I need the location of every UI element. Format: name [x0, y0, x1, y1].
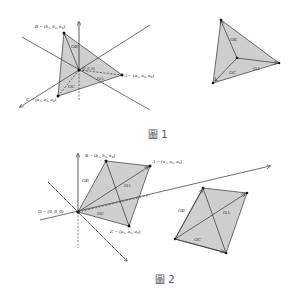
detail-parallelogram	[175, 188, 247, 253]
detail-vector-ob: OB	[230, 37, 237, 42]
detail-point-b	[202, 187, 205, 190]
parallelogram-fill	[78, 161, 150, 226]
label-b: B = (b₁, b₂, b₃)	[85, 153, 115, 159]
label-c: C = (a₁, a₂, a₃)	[110, 229, 141, 235]
detail-point-o	[174, 238, 177, 241]
detail-point-b	[220, 19, 223, 22]
detail-vector-oc: OC	[229, 70, 237, 75]
point-a	[149, 165, 152, 168]
caption-figure-1: 圖 1	[148, 126, 168, 141]
vector-ob: OB	[71, 44, 78, 49]
point-b	[63, 32, 66, 35]
point-b	[105, 160, 108, 163]
figure-2-detail: OB OA OC	[174, 187, 249, 255]
detail-point-a	[278, 62, 281, 65]
label-c: C = (a₁, a₂, a₃)	[26, 97, 57, 103]
label-a: A = (a₁, a₂, a₃)	[123, 73, 154, 79]
detail-face	[213, 20, 279, 83]
axis-b	[79, 25, 150, 70]
point-o	[78, 69, 81, 72]
detail-vector-oa: OA	[253, 66, 261, 71]
vector-ob: OB	[82, 178, 89, 183]
point-c	[128, 225, 131, 228]
detail-point-a	[246, 192, 249, 195]
label-b: B = (b₁, b₂, b₃)	[35, 24, 65, 30]
detail-vector-oa: OA	[223, 210, 231, 215]
label-o: O = (0, 0, 0)	[38, 209, 64, 215]
vector-oa: OA	[97, 76, 105, 81]
point-o	[77, 211, 80, 214]
figure-1-detail: OB OA OC	[212, 19, 281, 85]
caption-figure-2: 圖 2	[155, 271, 175, 286]
diagram-canvas: B = (b₁, b₂, b₃) A = (a₁, a₂, a₃) C = (a…	[0, 0, 293, 297]
detail-point-c	[212, 82, 215, 85]
vector-oc: OC	[68, 84, 76, 89]
detail-point-c	[225, 252, 228, 255]
detail-vector-oc: OC	[194, 237, 202, 242]
vector-oa: OA	[124, 183, 132, 188]
point-c	[57, 95, 60, 98]
vector-oc: OC	[97, 211, 105, 216]
figure-1: B = (b₁, b₂, b₃) A = (a₁, a₂, a₃) C = (a…	[20, 22, 154, 110]
label-a: A = (a₁, a₂, a₃)	[151, 159, 182, 165]
detail-point-o	[236, 57, 239, 60]
detail-vector-ob: OB	[178, 208, 185, 213]
